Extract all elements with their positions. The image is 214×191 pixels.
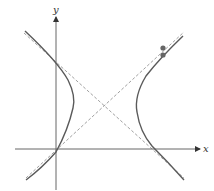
- hyperbola-left-branch: [25, 31, 74, 180]
- hyperbola-right-branch: [136, 36, 184, 180]
- point-on-asymptote: [160, 45, 165, 50]
- x-axis-label: x: [203, 143, 209, 154]
- point-on-curve: [160, 52, 165, 57]
- asymptote-ascending: [26, 32, 184, 178]
- y-axis-label: y: [52, 4, 59, 15]
- hyperbola-diagram: y x: [0, 0, 214, 191]
